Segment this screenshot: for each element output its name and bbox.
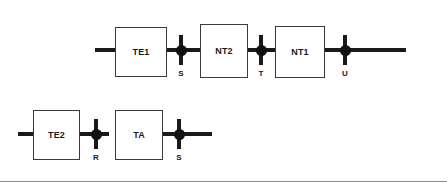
block-label: TE2 [48,131,65,140]
block-nt1[interactable]: NT1 [275,26,325,78]
node-dot-icon [256,45,267,56]
node-label-t: T [251,70,271,78]
node-dot-icon [176,45,187,56]
node-label-u: U [335,70,355,78]
wire-segment [95,48,117,52]
block-nt2[interactable]: NT2 [200,24,248,78]
block-te1[interactable]: TE1 [115,27,167,77]
block-label: TE1 [132,48,149,57]
block-label: TA [133,131,145,140]
node-dot-icon [174,129,185,140]
block-label: NT2 [215,47,233,56]
block-label: NT1 [291,48,309,57]
node-label-r: R [86,154,106,162]
node-dot-icon [91,129,102,140]
node-label-s-lower: S [169,154,189,162]
block-te2[interactable]: TE2 [33,110,80,160]
diagram-canvas: TE1 NT2 NT1 S T U [0,0,447,190]
node-dot-icon [340,45,351,56]
block-ta[interactable]: TA [115,110,163,160]
node-label-s-upper: S [171,70,191,78]
footer-divider [0,181,447,182]
